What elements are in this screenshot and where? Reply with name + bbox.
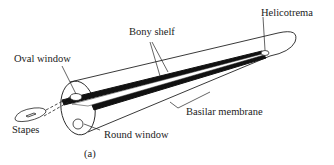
helicotrema-shape (261, 51, 269, 56)
bony-shelf-label: Bony shelf (129, 27, 175, 38)
round-window-label: Round window (104, 130, 168, 141)
panel-label: (a) (84, 149, 96, 160)
stapes-label: Stapes (12, 125, 39, 136)
oval-window-label: Oval window (14, 54, 71, 65)
basilar-membrane-label: Basilar membrane (186, 107, 263, 118)
oval-window-shape (70, 94, 82, 101)
helicotrema-label: Helicotrema (261, 8, 313, 19)
cochlea-diagram: Helicotrema Bony shelf Oval window Basil… (0, 0, 334, 165)
round-window-shape (73, 119, 83, 129)
